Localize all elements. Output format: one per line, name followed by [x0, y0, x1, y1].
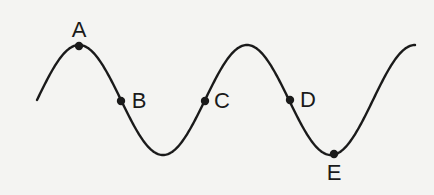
wave-diagram: A B C D E — [0, 0, 434, 195]
point-dot-e — [330, 150, 338, 158]
point-label-a: A — [72, 19, 87, 41]
point-dot-b — [117, 97, 125, 105]
point-dot-a — [75, 42, 83, 50]
point-dot-d — [286, 96, 294, 104]
point-label-d: D — [300, 89, 316, 111]
point-label-e: E — [327, 162, 342, 184]
point-label-c: C — [214, 90, 230, 112]
point-dot-c — [201, 97, 209, 105]
point-label-b: B — [132, 90, 147, 112]
